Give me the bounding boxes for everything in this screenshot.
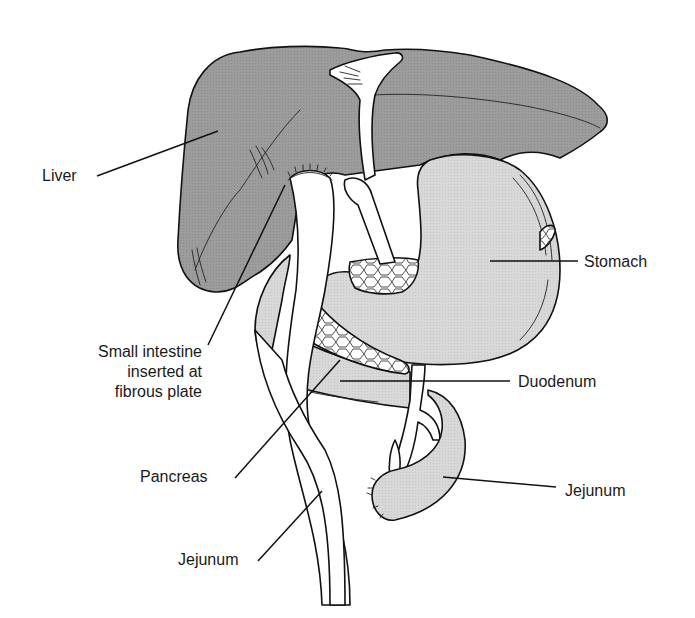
label-jejunum-left: Jejunum xyxy=(178,550,238,570)
label-small-intestine-line1: Small intestine xyxy=(62,342,202,362)
label-small-intestine: Small intestine inserted at fibrous plat… xyxy=(62,342,202,402)
portal-vessel xyxy=(344,178,395,264)
leader-jejunum-right xyxy=(443,477,556,487)
label-small-intestine-line2: inserted at xyxy=(62,362,202,382)
label-stomach: Stomach xyxy=(584,252,647,272)
label-liver: Liver xyxy=(42,166,77,186)
label-pancreas: Pancreas xyxy=(140,467,208,487)
label-jejunum-right: Jejunum xyxy=(565,481,625,501)
label-duodenum: Duodenum xyxy=(518,372,596,392)
label-small-intestine-line3: fibrous plate xyxy=(62,382,202,402)
anatomy-illustration xyxy=(0,0,695,618)
